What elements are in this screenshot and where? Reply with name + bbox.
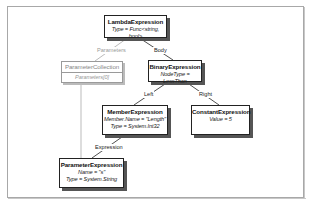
node-title: MemberExpression — [103, 108, 167, 116]
node-lambda-expression: LambdaExpression Type = Func<string, boo… — [104, 15, 167, 38]
node-title: BinaryExpression — [149, 63, 201, 71]
node-title: ParameterCollection — [62, 63, 122, 73]
node-parameter-expression: ParameterExpression Name = "s" Type = Sy… — [59, 158, 124, 188]
node-prop: Type = System.String — [60, 176, 123, 183]
node-prop: Parameters[0] — [62, 74, 122, 81]
node-parameter-collection: ParameterCollection Parameters[0] — [61, 61, 123, 83]
node-constant-expression: ConstantExpression Value = 5 — [191, 105, 250, 135]
edge-label-parameters: Parameters — [96, 47, 127, 54]
node-prop: Value = 5 — [192, 116, 249, 123]
edge-label-body: Body — [153, 47, 168, 54]
node-prop: Type = System.Int32 — [103, 123, 167, 130]
edge-label-left: Left — [143, 91, 154, 98]
edge-label-expression: Expression — [94, 144, 124, 151]
node-prop: Name = "s" — [60, 169, 123, 176]
edge-label-right: Right — [198, 91, 213, 98]
node-title: LambdaExpression — [105, 18, 166, 26]
node-title: ParameterExpression — [60, 161, 123, 169]
node-member-expression: MemberExpression Member.Name = "Length" … — [102, 105, 168, 135]
node-title: ConstantExpression — [192, 108, 249, 116]
node-prop: NodeType = LessThan — [149, 71, 201, 85]
node-prop: Type = Func<string, bool> — [105, 26, 166, 40]
node-prop: Member.Name = "Length" — [103, 116, 167, 123]
node-binary-expression: BinaryExpression NodeType = LessThan — [148, 60, 202, 82]
